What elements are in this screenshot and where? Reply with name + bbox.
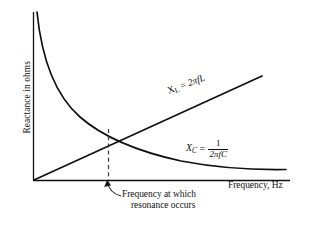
capacitive-curve-label: XC = 1 2πfC — [186, 139, 228, 159]
capacitive-equals: = — [199, 144, 205, 155]
capacitive-reactance-curve — [37, 12, 286, 170]
resonance-annotation: Frequency at which resonance occurs — [122, 189, 196, 210]
annotation-arrowhead-icon — [105, 180, 111, 186]
capacitive-subscript: C — [192, 146, 197, 155]
capacitive-numerator: 1 — [214, 139, 223, 149]
annotation-line-2: resonance occurs — [122, 200, 196, 211]
y-axis-label: Reactance in ohms — [22, 37, 33, 157]
capacitive-denominator: 2πfC — [208, 150, 228, 160]
inductive-reactance-curve — [34, 76, 262, 180]
annotation-line-1: Frequency at which — [122, 189, 196, 199]
capacitive-fraction: 1 2πfC — [208, 139, 228, 159]
reactance-frequency-figure: Reactance in ohms Frequency, Hz XL = 2πf… — [0, 0, 309, 228]
x-axis-label: Frequency, Hz — [228, 180, 283, 191]
